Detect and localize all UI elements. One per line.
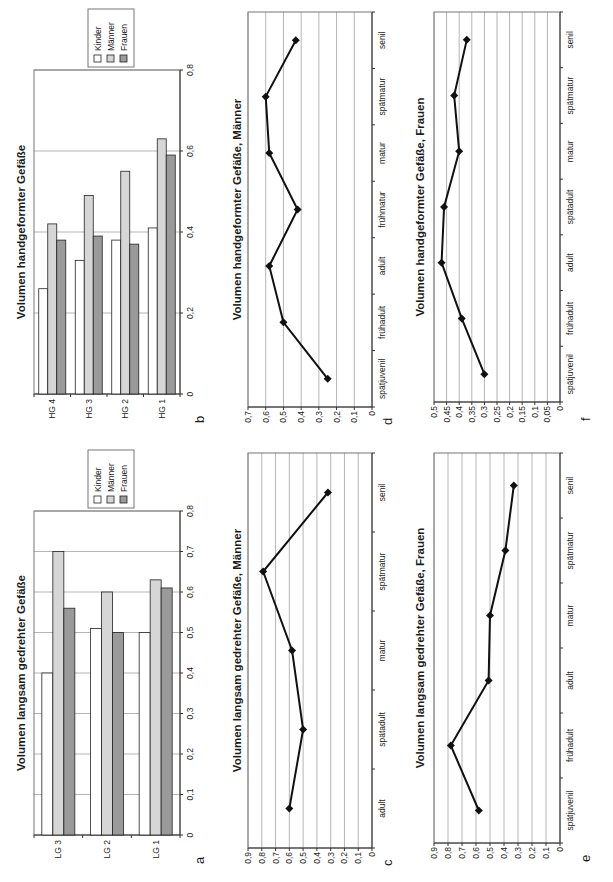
- value-tick-label: 0,5: [485, 847, 495, 859]
- data-point-spätmatur: [262, 93, 270, 101]
- data-point-senil: [510, 482, 518, 490]
- category-label: spätmatur: [377, 78, 387, 116]
- category-label: LG 1: [151, 840, 161, 859]
- panel-f: Volumen handgeformter Gefäße, Frauen00,0…: [398, 3, 612, 438]
- category-label: adult: [565, 253, 575, 272]
- data-point-adult: [438, 259, 446, 267]
- category-label: matur: [377, 639, 387, 661]
- value-tick-label: 0,5: [429, 406, 439, 418]
- chart-title: Volumen handgeformter Gefäße, Männer: [231, 98, 243, 320]
- bar-männer-HG2: [121, 171, 130, 394]
- value-tick-label: 0,6: [185, 145, 195, 157]
- data-point-frühmatur: [294, 206, 302, 214]
- category-label: frühadult: [565, 728, 575, 762]
- value-tick-label: 0: [367, 411, 377, 416]
- value-tick-label: 0,6: [185, 586, 195, 598]
- data-point-matur: [265, 149, 273, 157]
- bar-frauen-LG1: [161, 588, 172, 835]
- value-tick-label: 0,2: [505, 406, 515, 418]
- category-label: spätmatur: [565, 531, 575, 569]
- legend-label-männer: Männer: [106, 22, 116, 51]
- bar-frauen-HG2: [130, 244, 139, 394]
- panel-c: Volumen langsam gedrehter Gefäße, Männer…: [228, 444, 396, 879]
- plot-border: [248, 453, 372, 848]
- chart-b-svg: Volumen handgeformter Gefäße00,20,40,60,…: [8, 3, 226, 438]
- value-tick-label: 0,1: [349, 411, 359, 423]
- legend-swatch-frauen: [120, 496, 127, 503]
- value-tick-label: 0,6: [284, 852, 294, 864]
- legend-swatch-kinder: [94, 496, 101, 503]
- value-tick-label: 0,3: [314, 411, 324, 423]
- value-tick-label: 0,2: [185, 748, 195, 760]
- legend-swatch-frauen: [120, 55, 127, 62]
- category-label: matur: [377, 142, 387, 164]
- panel-letter: d: [380, 418, 395, 425]
- chart-b-natural: Volumen handgeformter Gefäße00,20,40,60,…: [8, 3, 226, 438]
- panel-letter: b: [192, 416, 207, 423]
- legend-label-frauen: Frauen: [119, 465, 129, 492]
- value-tick-label: 0,9: [429, 847, 439, 859]
- bar-kinder-LG3: [42, 673, 53, 835]
- category-label: adult: [377, 256, 387, 275]
- bar-frauen-LG3: [64, 608, 75, 835]
- category-label: frühadult: [377, 305, 387, 339]
- value-tick-label: 0,4: [296, 411, 306, 423]
- category-label: HG 1: [157, 399, 167, 419]
- value-tick-label: 0,05: [542, 406, 552, 423]
- bar-frauen-HG4: [57, 240, 66, 394]
- chart-title: Volumen langsam gedrehter Gefäße, Frauen: [414, 528, 426, 769]
- value-tick-label: 0,1: [353, 852, 363, 864]
- value-tick-label: 0,1: [541, 847, 551, 859]
- category-label: spätjuvenil: [565, 790, 575, 830]
- category-label: frühmatur: [377, 191, 387, 228]
- panel-e: Volumen langsam gedrehter Gefäße, Frauen…: [398, 444, 612, 879]
- bar-kinder-HG1: [148, 228, 157, 394]
- chart-e-natural: Volumen langsam gedrehter Gefäße, Frauen…: [398, 444, 612, 879]
- chart-title: Volumen langsam gedrehter Gefäße: [15, 575, 27, 771]
- category-label: senil: [565, 31, 575, 49]
- bar-männer-LG1: [150, 580, 161, 835]
- value-tick-label: 0,8: [257, 852, 267, 864]
- chart-d-svg: Volumen handgeformter Gefäße, Männer00,1…: [228, 3, 396, 438]
- data-point-matur: [486, 612, 494, 620]
- data-point-adult: [265, 262, 273, 270]
- data-point-spätjuvenil: [480, 370, 488, 378]
- bar-kinder-LG2: [91, 628, 102, 835]
- value-tick-label: 0,5: [278, 411, 288, 423]
- plot-border: [434, 453, 560, 843]
- value-tick-label: 0,5: [185, 626, 195, 638]
- value-tick-label: 0,2: [185, 307, 195, 319]
- data-point-spätadult: [299, 726, 307, 734]
- data-point-spätmatur: [450, 92, 458, 100]
- bar-frauen-HG1: [166, 155, 175, 394]
- value-tick-label: 0,1: [185, 788, 195, 800]
- category-label: senil: [377, 31, 387, 49]
- legend-swatch-männer: [107, 55, 114, 62]
- data-point-senil: [463, 36, 471, 44]
- chart-e-svg: Volumen langsam gedrehter Gefäße, Frauen…: [398, 444, 612, 879]
- category-label: LG 3: [53, 840, 63, 859]
- value-tick-label: 0,6: [471, 847, 481, 859]
- category-label: HG 2: [120, 399, 130, 419]
- category-label: LG 2: [102, 840, 112, 859]
- panel-letter: c: [380, 859, 395, 866]
- legend-label-männer: Männer: [106, 463, 116, 492]
- chart-title: Volumen langsam gedrehter Gefäße, Männer: [231, 528, 243, 772]
- chart-f-natural: Volumen handgeformter Gefäße, Frauen00,0…: [398, 3, 612, 438]
- value-tick-label: 0,35: [467, 406, 477, 423]
- data-point-adult: [485, 677, 493, 685]
- value-tick-label: 0: [367, 852, 377, 857]
- value-tick-label: 0,6: [261, 411, 271, 423]
- bar-männer-HG4: [48, 224, 57, 394]
- chart-f-svg: Volumen handgeformter Gefäße, Frauen00,0…: [398, 3, 612, 438]
- value-tick-label: 0,7: [243, 411, 253, 423]
- value-tick-label: 0,8: [185, 64, 195, 76]
- legend-swatch-männer: [107, 496, 114, 503]
- data-point-matur: [455, 147, 463, 155]
- value-tick-label: 0,3: [513, 847, 523, 859]
- panel-letter: f: [578, 417, 593, 421]
- chart-title: Volumen handgeformter Gefäße: [15, 145, 27, 319]
- panel-letter: e: [578, 855, 593, 862]
- value-tick-label: 0,15: [517, 406, 527, 423]
- panel-d: Volumen handgeformter Gefäße, Männer00,1…: [228, 3, 396, 438]
